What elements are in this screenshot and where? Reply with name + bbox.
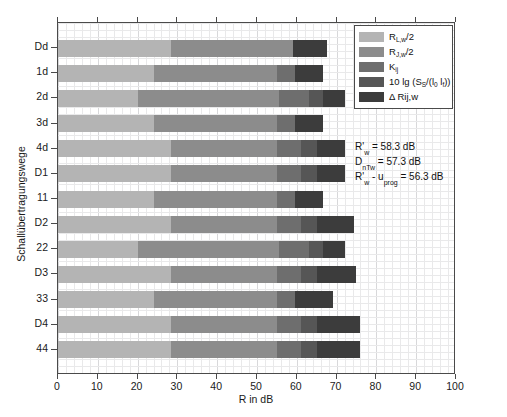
bar-segment: [323, 241, 345, 258]
annot-rwu-sub: w: [364, 179, 369, 186]
x-tick-label: 70: [316, 380, 356, 392]
bar-segment: [171, 216, 276, 233]
legend-item[interactable]: Kij: [359, 60, 448, 74]
bar-segment: [323, 90, 345, 107]
bar-segment: [58, 40, 171, 57]
x-tick-mark-top: [415, 17, 416, 22]
bar-segment: [277, 140, 301, 157]
bar-segment: [301, 165, 317, 182]
legend-swatch: [359, 32, 384, 42]
bar-segment: [58, 266, 171, 283]
x-tick-mark-top: [256, 17, 257, 22]
x-tick-mark: [216, 374, 217, 379]
x-tick-label: 100: [435, 380, 475, 392]
x-tick-mark-top: [455, 17, 456, 22]
bar-segment: [58, 140, 171, 157]
x-tick-label: 10: [77, 380, 117, 392]
bar-segment: [277, 216, 301, 233]
x-axis-title: R in dB: [57, 393, 455, 405]
x-tick-label: 80: [355, 380, 395, 392]
legend-item[interactable]: 10 lg (SS/(l0 lf)): [359, 75, 448, 89]
y-tick-label: D4: [8, 317, 48, 329]
x-tick-mark: [97, 374, 98, 379]
x-tick-mark: [375, 374, 376, 379]
bar-row: [58, 291, 456, 308]
legend: RL,w/2RJ,w/2Kij10 lg (SS/(l0 lf))Δ Rij,w: [354, 25, 453, 109]
x-tick-mark-top: [137, 17, 138, 22]
bar-segment: [277, 291, 295, 308]
legend-swatch: [359, 77, 384, 87]
bar-segment: [277, 165, 301, 182]
y-tick-label: D2: [8, 216, 48, 228]
x-tick-label: 40: [196, 380, 236, 392]
figure-chart: Schallübertragungswege Dd1d2d3d4dD111D22…: [0, 0, 507, 417]
bar-segment: [154, 191, 277, 208]
x-tick-mark: [415, 374, 416, 379]
bar-segment: [171, 316, 276, 333]
bar-segment: [277, 316, 301, 333]
bar-segment: [295, 115, 323, 132]
bar-segment: [171, 266, 276, 283]
bar-segment: [309, 90, 323, 107]
bar-segment: [58, 241, 138, 258]
bar-segment: [309, 241, 323, 258]
legend-swatch: [359, 92, 384, 102]
bar-segment: [279, 90, 309, 107]
bar-segment: [154, 291, 277, 308]
x-tick-mark-top: [97, 17, 98, 22]
bar-segment: [277, 65, 295, 82]
annot-dntw-sub: nTw: [362, 164, 375, 171]
x-tick-label: 50: [236, 380, 276, 392]
bar-segment: [58, 216, 171, 233]
bar-segment: [58, 341, 171, 358]
legend-item[interactable]: RL,w/2: [359, 30, 448, 44]
bar-segment: [58, 191, 154, 208]
annot-rwu-sub2: prog: [384, 179, 398, 186]
bar-segment: [317, 165, 345, 182]
legend-label: RL,w/2: [389, 32, 414, 42]
bar-segment: [295, 65, 323, 82]
legend-item[interactable]: RJ,w/2: [359, 45, 448, 59]
x-tick-label: 60: [276, 380, 316, 392]
y-tick-label: D1: [8, 166, 48, 178]
bar-segment: [171, 140, 276, 157]
annot-dntw-rest: = 57.3 dB: [378, 156, 421, 167]
annot-rwu-rest: = 56.3 dB: [400, 171, 443, 182]
bar-segment: [58, 165, 171, 182]
legend-label: RJ,w/2: [389, 47, 414, 57]
bar-segment: [58, 316, 171, 333]
bar-segment: [154, 65, 277, 82]
bar-segment: [58, 90, 138, 107]
bar-segment: [58, 291, 154, 308]
bar-segment: [277, 341, 301, 358]
bar-segment: [301, 341, 317, 358]
x-tick-mark: [336, 374, 337, 379]
annot-rw-symbol: R': [355, 141, 364, 152]
bar-segment: [277, 115, 295, 132]
bar-segment: [301, 316, 317, 333]
bar-segment: [317, 266, 357, 283]
y-tick-label: 33: [8, 292, 48, 304]
x-tick-mark-top: [57, 17, 58, 22]
bar-row: [58, 115, 456, 132]
bar-segment: [295, 191, 323, 208]
bar-segment: [138, 241, 279, 258]
bar-segment: [317, 341, 361, 358]
bar-row: [58, 341, 456, 358]
annot-rwu-mid: - u: [372, 171, 384, 182]
x-tick-label: 90: [395, 380, 435, 392]
x-tick-label: 30: [156, 380, 196, 392]
x-tick-mark-top: [216, 17, 217, 22]
bar-segment: [293, 40, 327, 57]
bar-row: [58, 241, 456, 258]
bar-row: [58, 216, 456, 233]
bar-segment: [277, 266, 301, 283]
legend-swatch: [359, 62, 384, 72]
y-tick-label: D3: [8, 266, 48, 278]
bar-row: [58, 191, 456, 208]
legend-label: Kij: [389, 62, 398, 72]
y-tick-label: 11: [8, 191, 48, 203]
bar-segment: [279, 241, 309, 258]
legend-item[interactable]: Δ Rij,w: [359, 90, 448, 104]
bar-segment: [138, 90, 279, 107]
